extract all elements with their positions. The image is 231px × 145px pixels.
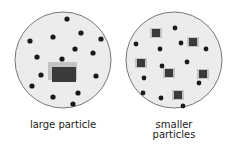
small-particle: [163, 68, 175, 78]
small-particle: [135, 58, 147, 68]
small-particle: [197, 69, 209, 79]
small-particle: [150, 28, 162, 38]
smaller-particles-panel: [126, 12, 222, 108]
large-particle: [48, 62, 77, 82]
large-particle-panel: [15, 12, 111, 108]
small-particle: [172, 90, 184, 100]
large-particle-label: large particle: [20, 120, 106, 130]
small-particle: [187, 37, 199, 47]
smaller-particles-label: smaller particles: [140, 120, 208, 140]
smaller-particles-label-line2: particles: [140, 130, 208, 140]
